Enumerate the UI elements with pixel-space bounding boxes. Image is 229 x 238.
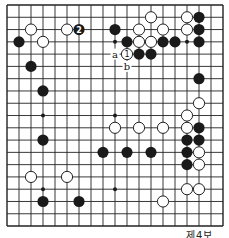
white-stone-icon bbox=[193, 184, 204, 195]
letter-mark-b: b bbox=[124, 61, 130, 72]
white-stone-icon bbox=[109, 122, 120, 133]
black-stone-icon bbox=[145, 49, 156, 60]
star-point-icon bbox=[113, 40, 117, 44]
black-stone-icon bbox=[121, 36, 132, 47]
black-stone-icon bbox=[73, 196, 84, 207]
white-stone-icon bbox=[133, 122, 144, 133]
black-stone-icon bbox=[25, 61, 36, 72]
white-stone-icon bbox=[37, 36, 48, 47]
white-stone-icon bbox=[133, 36, 144, 47]
star-point-icon bbox=[41, 114, 45, 118]
star-point-icon bbox=[185, 40, 189, 44]
black-stone-icon bbox=[181, 147, 192, 158]
black-stone-icon bbox=[193, 73, 204, 84]
white-stone-icon bbox=[193, 98, 204, 109]
black-stone-icon bbox=[37, 85, 48, 96]
white-stone-icon bbox=[181, 110, 192, 121]
white-stone-icon bbox=[145, 36, 156, 47]
white-stone-icon bbox=[157, 196, 168, 207]
go-board: ab 21 bbox=[0, 0, 229, 238]
black-stone-icon bbox=[193, 36, 204, 47]
white-stone-icon bbox=[61, 171, 72, 182]
black-stone-icon bbox=[97, 147, 108, 158]
white-stone-icon bbox=[181, 184, 192, 195]
black-stone-icon bbox=[193, 122, 204, 133]
black-stone-icon bbox=[109, 24, 120, 35]
star-point-icon bbox=[113, 114, 117, 118]
black-stone-icon bbox=[193, 134, 204, 145]
white-stone-icon bbox=[25, 171, 36, 182]
black-stone-icon bbox=[37, 196, 48, 207]
white-stone-icon bbox=[157, 122, 168, 133]
white-stone-icon bbox=[145, 12, 156, 23]
move-number-1: 1 bbox=[124, 50, 129, 59]
move-number-2: 2 bbox=[76, 26, 82, 35]
black-stone-icon bbox=[133, 49, 144, 60]
black-stone-icon bbox=[13, 36, 24, 47]
star-point-icon bbox=[113, 187, 117, 191]
black-stone-icon bbox=[193, 24, 204, 35]
white-stone-icon bbox=[61, 24, 72, 35]
letter-mark-a: a bbox=[112, 49, 118, 60]
black-stone-icon bbox=[37, 134, 48, 145]
white-stone-icon bbox=[157, 24, 168, 35]
white-stone-icon bbox=[181, 122, 192, 133]
white-stone-icon bbox=[193, 159, 204, 170]
white-stone-icon bbox=[133, 24, 144, 35]
black-stone-icon bbox=[169, 36, 180, 47]
white-stone-icon bbox=[181, 24, 192, 35]
stones: 21 bbox=[13, 12, 204, 207]
black-stone-icon bbox=[181, 159, 192, 170]
black-stone-icon bbox=[157, 36, 168, 47]
black-stone-icon bbox=[145, 147, 156, 158]
white-stone-icon bbox=[181, 12, 192, 23]
black-stone-icon bbox=[121, 147, 132, 158]
white-stone-icon bbox=[25, 24, 36, 35]
diagram-caption: 제4보 bbox=[186, 231, 213, 238]
black-stone-icon bbox=[181, 134, 192, 145]
star-point-icon bbox=[41, 187, 45, 191]
black-stone-icon bbox=[193, 12, 204, 23]
white-stone-icon bbox=[193, 147, 204, 158]
